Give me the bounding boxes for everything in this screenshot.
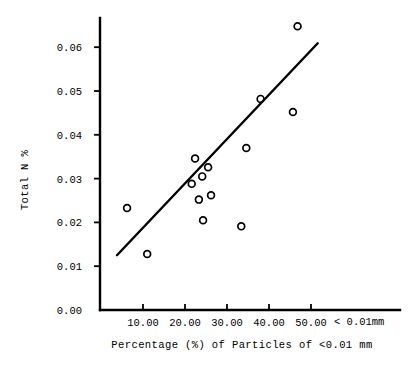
x-tick-label-30.00: 30.00 [211, 317, 243, 329]
regression-line [117, 43, 318, 255]
data-point [199, 173, 206, 180]
scatter-plot-figure: 0.000.010.020.030.040.050.06 10.0020.003… [0, 0, 413, 370]
y-tick-label-0.01: 0.01 [57, 261, 82, 273]
y-axis-tick-labels: 0.000.010.020.030.040.050.06 [57, 42, 82, 317]
data-points-group [124, 23, 301, 258]
x-axis-tick-labels: 10.0020.0030.0040.0050.00 [127, 317, 327, 329]
x-axis-ticks [143, 304, 311, 309]
x-tick-label-20.00: 20.00 [169, 317, 201, 329]
data-point [192, 155, 199, 162]
y-tick-label-0.04: 0.04 [57, 130, 82, 142]
x-axis-unit-note: < 0.01mm [334, 316, 384, 328]
x-tick-label-40.00: 40.00 [253, 317, 285, 329]
data-point [144, 251, 151, 258]
data-point [243, 145, 250, 152]
y-tick-label-0.02: 0.02 [57, 217, 82, 229]
axes-group [100, 18, 400, 310]
data-point [257, 95, 264, 102]
data-point [290, 109, 297, 116]
data-point [205, 164, 212, 171]
data-point [208, 192, 215, 199]
y-tick-label-0.06: 0.06 [57, 42, 82, 54]
plot-canvas: 0.000.010.020.030.040.050.06 10.0020.003… [0, 0, 413, 370]
y-tick-label-0.05: 0.05 [57, 86, 82, 98]
data-point [195, 196, 202, 203]
data-point [188, 180, 195, 187]
data-point [124, 205, 131, 212]
data-point [294, 23, 301, 30]
x-axis-title: Percentage (%) of Particles of <0.01 mm [111, 339, 372, 351]
y-tick-label-0.03: 0.03 [57, 174, 82, 186]
x-tick-label-10.00: 10.00 [127, 317, 159, 329]
x-tick-label-50.00: 50.00 [295, 317, 327, 329]
y-axis-title: Total N % [19, 150, 31, 211]
data-point [200, 217, 207, 224]
y-tick-label-0.00: 0.00 [57, 305, 82, 317]
data-point [238, 223, 245, 230]
